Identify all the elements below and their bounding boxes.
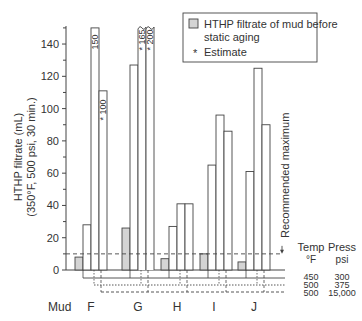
bar-value-label: * 100 <box>98 99 108 120</box>
category-label-I: I <box>212 300 215 314</box>
y-tick-label: 120 <box>41 70 59 82</box>
y-tick-label: 80 <box>47 135 59 147</box>
y-axis-label-units: (350°F, 500 psi, 30 min.) <box>25 97 37 216</box>
legend-label-gray: HTHP filtrate of mud before <box>204 18 338 30</box>
table-header-temp-unit: °F <box>306 254 316 265</box>
y-tick-label: 0 <box>53 264 59 276</box>
bar-F-2 <box>91 28 99 270</box>
bar-G-0 <box>122 228 130 270</box>
legend-gray-swatch <box>189 19 198 28</box>
bar-G-3 <box>146 27 154 270</box>
bar-H-1 <box>169 226 177 270</box>
bar-J-1 <box>246 172 254 270</box>
category-label-F: F <box>87 300 94 314</box>
bar-J-2 <box>254 68 262 270</box>
category-label-H: H <box>173 300 182 314</box>
bar-H-2 <box>177 204 185 270</box>
table-header-press-unit: psi <box>336 254 349 265</box>
bar-H-0 <box>161 259 169 270</box>
y-axis-label: HTHP filtrate (mL) <box>12 113 24 201</box>
y-tick-label: 20 <box>47 232 59 244</box>
legend-label-gray-line2: static aging <box>204 31 260 43</box>
table-press-value: 15,000 <box>328 288 356 298</box>
y-tick-label: 140 <box>41 38 59 50</box>
bar-I-2 <box>216 115 224 270</box>
bar-value-label: 150 <box>90 34 100 49</box>
bar-H-3 <box>185 204 193 270</box>
bar-F-0 <box>75 257 83 270</box>
bar-J-3 <box>262 125 270 270</box>
y-tick-label: 100 <box>41 103 59 115</box>
bar-G-2 <box>138 27 146 270</box>
bar-F-1 <box>83 225 91 270</box>
legend-estimate-symbol: * <box>193 47 198 59</box>
legend-label-estimate: Estimate <box>204 46 247 58</box>
table-temp-value: 500 <box>303 288 318 298</box>
table-header-press: Press <box>328 241 357 253</box>
x-axis-label: Mud <box>48 300 71 314</box>
bar-I-0 <box>200 254 208 270</box>
hthp-filtrate-chart: 020406080100120140HTHP filtrate (mL)(350… <box>0 0 362 321</box>
bar-value-label: * 200 <box>145 29 155 50</box>
reference-line-label: Recommended maximum <box>279 113 291 238</box>
arrow-head-icon <box>280 250 284 254</box>
category-label-G: G <box>133 300 142 314</box>
bar-G-1 <box>130 65 138 270</box>
y-tick-label: 60 <box>47 167 59 179</box>
table-header-temp: Temp <box>298 241 325 253</box>
bar-J-0 <box>238 262 246 270</box>
y-tick-label: 40 <box>47 199 59 211</box>
category-label-J: J <box>251 300 257 314</box>
bar-I-3 <box>224 131 232 270</box>
